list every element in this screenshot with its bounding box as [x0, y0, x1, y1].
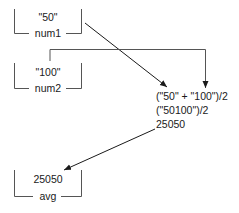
num1-arrow: [85, 23, 167, 87]
num2-value: "100": [36, 66, 61, 78]
expression-line-2: ("50100")/2: [156, 104, 208, 116]
num2-label: num2: [32, 82, 64, 94]
result-arrow: [64, 129, 155, 170]
num1-value: "50": [38, 11, 57, 23]
num2-arrow: [50, 50, 206, 89]
avg-value: 25050: [33, 173, 62, 185]
expression-result: 25050: [156, 118, 185, 130]
num1-label: num1: [32, 27, 64, 39]
expression-line-1: ("50" + "100")/2: [156, 90, 228, 102]
avg-label: avg: [37, 190, 60, 202]
